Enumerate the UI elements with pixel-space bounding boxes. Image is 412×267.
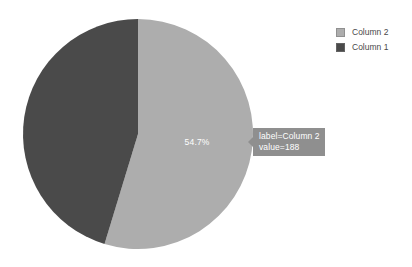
pie-slice-label-column-2: 54.7% — [185, 137, 210, 147]
legend-swatch-column-2 — [336, 28, 345, 37]
chart-legend: Column 2 Column 1 — [336, 26, 410, 56]
pie-chart-container: 54.7% Column 2 Column 1 label=Column 2 v… — [0, 0, 412, 267]
legend-item-column-2[interactable]: Column 2 — [336, 26, 410, 39]
tooltip-arrow-icon — [248, 137, 253, 147]
legend-label-column-2: Column 2 — [352, 27, 388, 38]
legend-label-column-1: Column 1 — [352, 42, 388, 53]
chart-tooltip: label=Column 2 value=188 — [253, 128, 325, 156]
tooltip-value-line: value=188 — [259, 142, 320, 153]
legend-item-column-1[interactable]: Column 1 — [336, 41, 410, 54]
tooltip-label-line: label=Column 2 — [259, 131, 320, 142]
legend-swatch-column-1 — [336, 43, 345, 52]
